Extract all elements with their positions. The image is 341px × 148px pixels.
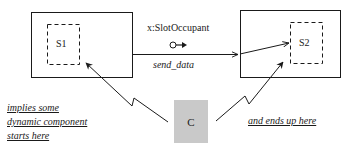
start-annotation-line-3: starts here <box>7 129 87 143</box>
circle-arrow-icon <box>170 42 187 48</box>
start-annotation-line-2: dynamic component <box>7 115 87 129</box>
left-container-box <box>32 13 133 78</box>
slot-s1-label: S1 <box>56 39 67 49</box>
start-annotation: implies some dynamic component starts he… <box>7 101 87 143</box>
dynamic-component-c: C <box>174 100 208 143</box>
start-annotation-line-1: implies some <box>7 101 87 115</box>
message-label: send_data <box>153 60 194 70</box>
slot-s2-label: S2 <box>299 38 310 48</box>
end-path-arrow <box>216 62 283 121</box>
component-label: C <box>187 116 194 128</box>
end-annotation: and ends up here <box>248 114 316 128</box>
connector-to-s2 <box>240 43 289 54</box>
right-container-box <box>241 11 341 78</box>
connector-label: x:SlotOccupant <box>147 23 209 33</box>
start-path-arrow <box>86 63 168 122</box>
